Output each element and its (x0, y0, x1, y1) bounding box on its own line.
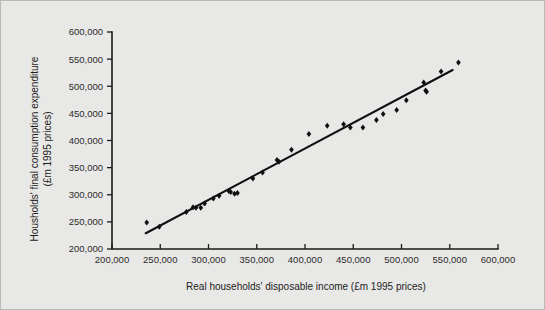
y-tick-label: 200,000 (69, 243, 103, 254)
scatter-plot: 200,000250,000300,000350,000400,000450,0… (1, 1, 545, 310)
y-tick-label: 400,000 (69, 135, 103, 146)
y-tick-label: 450,000 (69, 108, 103, 119)
x-axis-title: Real households' disposable income (£m 1… (186, 281, 426, 292)
axes (107, 32, 498, 249)
y-tick-label: 300,000 (69, 189, 103, 200)
chart-figure: 200,000250,000300,000350,000400,000450,0… (0, 0, 545, 310)
y-tick-label: 250,000 (69, 216, 103, 227)
x-tick-label: 450,000 (336, 254, 370, 265)
y-tick-label: 600,000 (69, 26, 103, 37)
x-tick-label: 250,000 (143, 254, 177, 265)
x-tick-labels: 200,000250,000300,000350,000400,000450,0… (95, 254, 515, 265)
x-tick-label: 350,000 (240, 254, 274, 265)
y-axis-title-line1: Housholds' final consumption expenditure (29, 56, 40, 241)
data-point-marker (307, 131, 312, 137)
data-point-marker (394, 107, 399, 113)
data-point-marker (361, 124, 366, 130)
data-point-marker (381, 111, 386, 117)
y-tick-label: 350,000 (69, 162, 103, 173)
x-tick-label: 200,000 (95, 254, 129, 265)
data-point-marker (235, 190, 240, 196)
y-tick-labels: 200,000250,000300,000350,000400,000450,0… (69, 26, 103, 254)
data-point-marker (289, 147, 294, 153)
data-point-marker (404, 97, 409, 103)
y-tick-label: 550,000 (69, 54, 103, 65)
x-tick-label: 600,000 (481, 254, 515, 265)
y-tick-label: 500,000 (69, 81, 103, 92)
data-series (144, 59, 460, 229)
data-point-marker (456, 59, 461, 65)
y-axis-title-line2: (£m 1995 prices) (42, 111, 53, 186)
data-point-marker (374, 117, 379, 123)
x-tick-label: 500,000 (384, 254, 418, 265)
x-tick-label: 550,000 (433, 254, 467, 265)
data-point-marker (439, 69, 444, 75)
x-tick-label: 300,000 (191, 254, 225, 265)
axis-lines (112, 32, 498, 249)
data-point-marker (325, 123, 330, 129)
data-point-marker (144, 219, 149, 225)
x-tick-label: 400,000 (288, 254, 322, 265)
trend-line (146, 70, 453, 233)
